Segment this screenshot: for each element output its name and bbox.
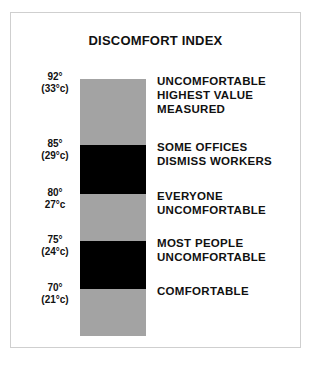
desc-everyone-uncomfortable: EVERYONEUNCOMFORTABLE xyxy=(157,189,266,217)
desc-comfortable: COMFORTABLE xyxy=(157,284,249,298)
tick-c: (24°c) xyxy=(30,246,80,258)
desc-most-uncomfortable: MOST PEOPLEUNCOMFORTABLE xyxy=(157,236,266,264)
tick-c: 27°c xyxy=(30,199,80,211)
desc-highest: UNCOMFORTABLEHIGHEST VALUEMEASURED xyxy=(157,74,266,116)
tick-c: (21°c) xyxy=(30,294,80,306)
tick-f: 70° xyxy=(30,282,80,294)
tick-80: 80°27°c xyxy=(30,187,80,211)
tick-70: 70°(21°c) xyxy=(30,282,80,306)
tick-f: 75° xyxy=(30,234,80,246)
band-highest xyxy=(80,79,146,145)
tick-c: (29°c) xyxy=(30,150,80,162)
band-everyone-uncomfortable xyxy=(80,194,146,241)
tick-c: (33°c) xyxy=(30,83,80,95)
chart-title: DISCOMFORT INDEX xyxy=(0,33,311,48)
band-offices-dismiss xyxy=(80,145,146,194)
tick-75: 75°(24°c) xyxy=(30,234,80,258)
tick-85: 85°(29°c) xyxy=(30,138,80,162)
band-most-uncomfortable xyxy=(80,241,146,289)
desc-offices-dismiss: SOME OFFICESDISMISS WORKERS xyxy=(157,140,272,168)
tick-f: 80° xyxy=(30,187,80,199)
tick-f: 85° xyxy=(30,138,80,150)
tick-92: 92°(33°c) xyxy=(30,71,80,95)
band-comfortable xyxy=(80,289,146,336)
tick-f: 92° xyxy=(30,71,80,83)
